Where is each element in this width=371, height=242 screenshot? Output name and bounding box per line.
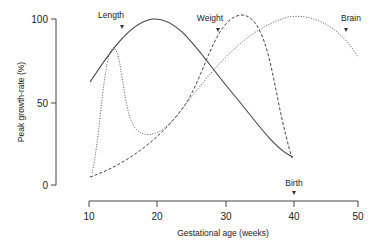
weight-curve — [90, 15, 292, 177]
weight-label: Weight — [197, 13, 224, 23]
x-axis-label: Gestational age (weeks) — [177, 228, 269, 238]
length-arrow-icon — [120, 25, 124, 29]
x-tick-10: 10 — [83, 211, 95, 222]
y-tick-100: 100 — [31, 14, 48, 25]
y-axis-label: Peak growth-rate (%) — [16, 62, 26, 142]
brain-label: Brain — [341, 13, 361, 23]
y-axis: 100 50 0 Peak growth-rate (%) — [16, 14, 56, 191]
birth-label: Birth — [285, 178, 303, 188]
x-tick-50: 50 — [352, 211, 364, 222]
weight-arrow-icon — [216, 28, 220, 32]
length-label: Length — [98, 10, 124, 20]
weight-annotation: Weight — [197, 13, 224, 32]
x-tick-20: 20 — [151, 211, 163, 222]
length-annotation: Length — [98, 10, 124, 29]
y-tick-50: 50 — [37, 98, 49, 109]
brain-annotation: Brain — [341, 13, 361, 32]
birth-arrow-icon — [292, 191, 296, 195]
brain-arrow-icon — [344, 28, 348, 32]
x-axis: 10 20 30 40 50 Gestational age (weeks) — [83, 201, 364, 238]
y-tick-0: 0 — [42, 180, 48, 191]
growth-rate-chart: 100 50 0 Peak growth-rate (%) 10 20 30 4… — [0, 0, 371, 242]
length-curve — [90, 19, 293, 157]
x-tick-40: 40 — [288, 211, 300, 222]
x-tick-30: 30 — [220, 211, 232, 222]
brain-curve — [92, 16, 358, 173]
birth-annotation: Birth — [285, 178, 303, 195]
